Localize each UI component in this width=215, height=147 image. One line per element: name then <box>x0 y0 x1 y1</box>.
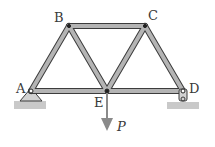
truss-diagram: A B C E D P <box>0 0 215 147</box>
label-d: D <box>189 81 199 96</box>
label-e: E <box>94 95 104 110</box>
joint-c <box>143 24 146 27</box>
members-outline <box>31 26 183 91</box>
ground-a <box>14 101 46 109</box>
label-a: A <box>15 81 26 96</box>
joint-b <box>67 24 70 27</box>
members-fill <box>31 26 183 91</box>
ground-d <box>167 102 199 109</box>
joint-d <box>181 89 185 93</box>
label-c: C <box>148 8 158 23</box>
joint-a <box>29 89 33 93</box>
label-b: B <box>54 10 64 25</box>
load-arrow-head <box>101 118 113 131</box>
joint-e <box>105 89 109 93</box>
label-load-p: P <box>116 119 126 134</box>
